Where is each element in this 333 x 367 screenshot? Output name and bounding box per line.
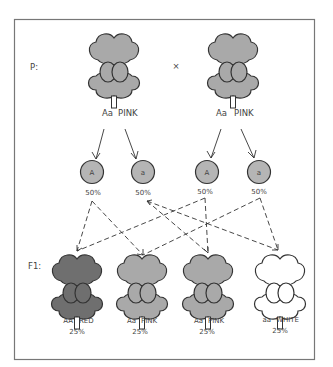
offspring-3-percent: 25%: [199, 328, 215, 336]
offspring-4-percent: 25%: [272, 327, 288, 335]
offspring-1-genotype: AA: [63, 317, 73, 325]
svg-text:A: A: [205, 169, 210, 177]
svg-text:a: a: [141, 169, 145, 177]
offspring-1-percent: 25%: [69, 328, 85, 336]
svg-text:50%: 50%: [251, 188, 267, 196]
svg-text:50%: 50%: [197, 188, 213, 196]
parent-2-genotype: Aa: [216, 108, 227, 118]
parental-label: P:: [30, 62, 38, 72]
parent-1-phenotype: PINK: [118, 108, 138, 118]
svg-text:A: A: [90, 169, 95, 177]
offspring-4-genotype: aa: [262, 316, 271, 324]
offspring-2-genotype: Aa: [127, 317, 136, 325]
parent-2-phenotype: PINK: [234, 108, 254, 118]
filial-label: F1:: [28, 261, 41, 271]
cross-diagram: P: × Aa PINK Aa PINK A 50% a 50% A 50% a…: [0, 0, 333, 367]
svg-text:50%: 50%: [85, 189, 101, 197]
parent-1-genotype: Aa: [102, 108, 113, 118]
offspring-2-phenotype: PINK: [141, 317, 158, 325]
svg-text:50%: 50%: [135, 189, 151, 197]
offspring-3-phenotype: PINK: [208, 317, 225, 325]
offspring-3-genotype: Aa: [194, 317, 203, 325]
cross-symbol: ×: [172, 61, 179, 71]
offspring-4-phenotype: WHITE: [276, 316, 299, 324]
offspring-1-phenotype: RED: [79, 317, 94, 325]
svg-text:a: a: [257, 169, 261, 177]
offspring-2-percent: 25%: [132, 328, 148, 336]
